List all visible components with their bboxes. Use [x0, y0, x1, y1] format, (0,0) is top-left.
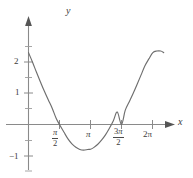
y-axis-arrowhead — [25, 16, 32, 26]
x-axis-arrowhead — [165, 121, 175, 128]
fraction-pi-over-2: π 2 — [52, 128, 58, 149]
fraction-denominator: 2 — [113, 138, 124, 148]
plot-canvas — [0, 0, 193, 178]
y-tick-label-neg1: −1 — [9, 152, 19, 161]
x-tick-label-pi-over-2: π 2 — [52, 128, 58, 149]
x-tick-label-pi: π — [86, 130, 91, 139]
chart-figure: y x 2 1 −1 π 2 π 3π 2 2π — [0, 0, 193, 178]
x-axis-label: x — [178, 117, 182, 127]
x-tick-label-3pi-over-2: 3π 2 — [113, 127, 124, 148]
fraction-3pi-over-2: 3π 2 — [113, 127, 124, 148]
y-axis-label: y — [66, 6, 70, 16]
fraction-numerator: 3π — [113, 127, 124, 138]
y-tick-label-2: 2 — [14, 57, 19, 66]
fraction-numerator: π — [52, 128, 58, 139]
y-tick-label-1: 1 — [15, 88, 20, 97]
x-tick-label-2pi: 2π — [143, 130, 152, 139]
fraction-denominator: 2 — [52, 139, 58, 149]
fraction-numerator-pi: π — [118, 126, 122, 136]
